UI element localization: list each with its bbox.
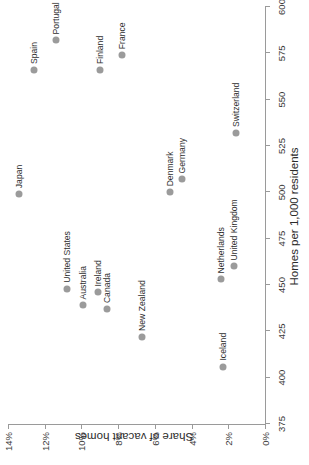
x-axis-tick bbox=[265, 145, 270, 146]
x-axis-tick-label: 450 bbox=[276, 277, 287, 293]
x-axis-tick-label: 575 bbox=[276, 45, 287, 61]
plot-area: 3754004254504755005255505756000%2%4%6%8%… bbox=[8, 7, 266, 425]
scatter-point-label: Portugal bbox=[51, 2, 61, 34]
scatter-point-label: Australia bbox=[78, 266, 88, 299]
x-axis-tick bbox=[265, 6, 270, 7]
scatter-point-label: Finland bbox=[95, 36, 105, 64]
x-axis-tick-label: 550 bbox=[276, 92, 287, 108]
y-axis-tick bbox=[45, 424, 46, 429]
scatter-point[interactable] bbox=[217, 276, 224, 283]
x-axis-tick bbox=[265, 238, 270, 239]
x-axis-tick-label: 475 bbox=[276, 231, 287, 247]
scatter-point-label: Iceland bbox=[218, 333, 228, 361]
scatter-point[interactable] bbox=[219, 363, 226, 370]
scatter-point[interactable] bbox=[139, 333, 146, 340]
scatter-point[interactable] bbox=[118, 52, 125, 59]
x-axis-tick-label: 500 bbox=[276, 184, 287, 200]
y-axis-tick-label: 0% bbox=[260, 432, 271, 446]
scatter-point-label: Germany bbox=[177, 138, 187, 173]
scatter-plot-figure: 3754004254504755005255505756000%2%4%6%8%… bbox=[0, 0, 309, 465]
scatter-point-label: Spain bbox=[29, 42, 39, 64]
x-axis-title: Homes per 1,000 residents bbox=[288, 8, 300, 425]
x-axis-tick bbox=[265, 191, 270, 192]
scatter-point-label: United Kingdom bbox=[229, 199, 239, 260]
x-axis-tick-label: 425 bbox=[276, 323, 287, 339]
x-axis-tick bbox=[265, 377, 270, 378]
scatter-point[interactable] bbox=[16, 191, 23, 198]
x-axis-tick-label: 375 bbox=[276, 416, 287, 432]
scatter-point-label: Switzerland bbox=[231, 83, 241, 127]
scatter-point[interactable] bbox=[230, 263, 237, 270]
y-axis-tick-label: 14% bbox=[3, 432, 14, 451]
rotated-figure-wrapper: 3754004254504755005255505756000%2%4%6%8%… bbox=[0, 0, 309, 465]
scatter-point-label: New Zealand bbox=[137, 280, 147, 331]
y-axis-tick bbox=[192, 424, 193, 429]
scatter-point-label: Netherlands bbox=[216, 227, 226, 273]
scatter-point-label: Japan bbox=[14, 165, 24, 188]
x-axis-tick bbox=[265, 284, 270, 285]
y-axis-title: Share of vacant homes bbox=[14, 431, 254, 443]
x-axis-tick-label: 525 bbox=[276, 138, 287, 154]
scatter-point[interactable] bbox=[232, 130, 239, 137]
scatter-point[interactable] bbox=[179, 176, 186, 183]
x-axis-tick bbox=[265, 52, 270, 53]
scatter-point-label: United States bbox=[62, 231, 72, 283]
scatter-point-label: Ireland bbox=[93, 260, 103, 286]
y-axis-tick bbox=[118, 424, 119, 429]
scatter-point[interactable] bbox=[96, 67, 103, 74]
y-axis-tick bbox=[81, 424, 82, 429]
y-axis-tick bbox=[8, 424, 9, 429]
scatter-point[interactable] bbox=[30, 67, 37, 74]
scatter-point-label: France bbox=[117, 22, 127, 49]
y-axis-tick bbox=[228, 424, 229, 429]
x-axis-tick-label: 600 bbox=[276, 0, 287, 15]
y-axis-tick bbox=[265, 424, 266, 429]
x-axis-tick bbox=[265, 330, 270, 331]
scatter-point[interactable] bbox=[52, 37, 59, 44]
x-axis-tick bbox=[265, 99, 270, 100]
scatter-point[interactable] bbox=[166, 189, 173, 196]
scatter-point[interactable] bbox=[94, 289, 101, 296]
scatter-point[interactable] bbox=[63, 285, 70, 292]
x-axis-tick-label: 400 bbox=[276, 370, 287, 386]
scatter-point-label: Canada bbox=[102, 273, 112, 303]
scatter-point[interactable] bbox=[80, 302, 87, 309]
y-axis-tick bbox=[155, 424, 156, 429]
scatter-point[interactable] bbox=[104, 306, 111, 313]
scatter-point-label: Denmark bbox=[165, 151, 175, 186]
